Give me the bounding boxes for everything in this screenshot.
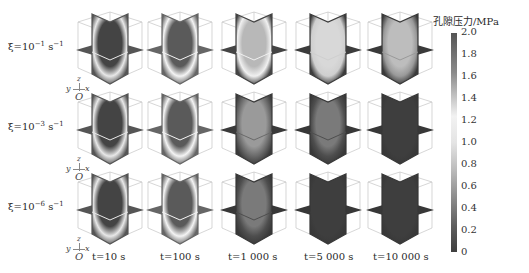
- column-label-t1000: t=1 000 s: [228, 251, 277, 262]
- pressure-cube-r3-c2: [142, 168, 218, 248]
- axis-y-label: y: [66, 244, 71, 253]
- colorbar-tick: 1.2: [461, 114, 477, 125]
- pressure-cube-r1-c1: [72, 8, 148, 88]
- axis-origin-label: O: [75, 251, 83, 262]
- column-label-t10000: t=10 000 s: [373, 251, 429, 262]
- colorbar-tick: 1.0: [461, 136, 477, 147]
- colorbar-tick: 1.4: [461, 92, 477, 103]
- colorbar-tick: 1.6: [461, 70, 477, 81]
- colorbar-tick: 1.8: [461, 48, 477, 59]
- pressure-cube-r3-c3: [216, 168, 292, 248]
- column-label-t100: t=100 s: [160, 251, 200, 262]
- colorbar-tick: 0.8: [461, 158, 477, 169]
- row-label-exp: −1: [35, 40, 45, 48]
- pressure-cube-r2-c5: [362, 88, 438, 168]
- row-label-text: ξ=10: [8, 121, 35, 132]
- column-label-t10: t=10 s: [92, 251, 125, 262]
- colorbar-tick: 0.6: [461, 180, 477, 191]
- pressure-cube-r2-c3: [216, 88, 292, 168]
- row-label-text: ξ=10: [8, 41, 35, 52]
- row-label-strain-rate-3: ξ=10−6 s−1: [8, 200, 64, 212]
- colorbar-tick: 0.4: [461, 202, 477, 213]
- pressure-cube-r1-c5: [362, 8, 438, 88]
- colorbar-tick: 0.2: [461, 224, 477, 235]
- colorbar: [451, 33, 457, 252]
- axis-y-label: y: [66, 84, 71, 93]
- row-label-exp: −6: [35, 200, 45, 208]
- row-label-strain-rate-1: ξ=10−1 s−1: [8, 40, 64, 52]
- row-label-unit-exp: −1: [53, 200, 63, 208]
- row-label-unit-exp: −1: [53, 120, 63, 128]
- pressure-cube-r2-c2: [142, 88, 218, 168]
- row-label-exp: −3: [35, 120, 45, 128]
- row-label-strain-rate-2: ξ=10−3 s−1: [8, 120, 64, 132]
- row-label-text: ξ=10: [8, 201, 35, 212]
- column-label-t5000: t=5 000 s: [304, 251, 353, 262]
- pressure-cube-r2-c1: [72, 88, 148, 168]
- pressure-cube-r3-c1: [72, 168, 148, 248]
- pressure-cube-r3-c5: [362, 168, 438, 248]
- pressure-cube-r1-c2: [142, 8, 218, 88]
- pressure-cube-r3-c4: [290, 168, 366, 248]
- axis-y-label: y: [66, 164, 71, 173]
- colorbar-tick: 2.0: [461, 26, 477, 37]
- pressure-cube-r2-c4: [290, 88, 366, 168]
- pressure-cube-r1-c3: [216, 8, 292, 88]
- colorbar-tick: 0: [461, 246, 467, 257]
- pressure-cube-r1-c4: [290, 8, 366, 88]
- axis-line: [73, 249, 85, 250]
- row-label-unit-exp: −1: [53, 40, 63, 48]
